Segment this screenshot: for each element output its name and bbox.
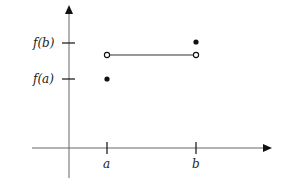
- y-axis-arrow-icon: [65, 5, 73, 14]
- x-axis-arrow-icon: [263, 144, 272, 152]
- right-open-endpoint: [193, 52, 198, 57]
- y-tick-label-fa: f(a): [32, 72, 54, 86]
- x-tick-label-a: a: [103, 157, 110, 171]
- f-b-point: [193, 39, 198, 44]
- f-a-point: [104, 76, 109, 81]
- left-open-endpoint: [104, 52, 109, 57]
- y-tick-label-fb: f(b): [32, 36, 55, 50]
- step-function-diagram: a b f(b) f(a): [0, 0, 285, 185]
- x-tick-label-b: b: [192, 157, 200, 171]
